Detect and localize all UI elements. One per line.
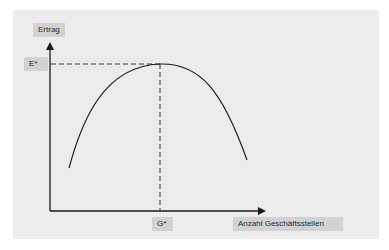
y-axis-label: Ertrag	[33, 23, 65, 37]
optimum-y-label: E*	[24, 57, 48, 71]
optimum-x-label: G*	[152, 217, 173, 231]
diagram-plot	[0, 0, 389, 250]
yield-curve	[69, 64, 247, 168]
x-axis-label: Anzahl Geschäftsstellen	[233, 217, 343, 231]
